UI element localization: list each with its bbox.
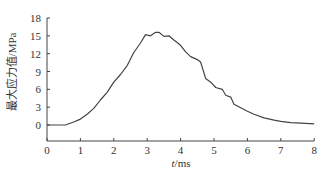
- x-tick-label: 6: [245, 144, 251, 156]
- y-tick-label: 9: [36, 66, 42, 78]
- y-axis: 0369121518: [30, 12, 50, 141]
- x-tick-label: 2: [111, 144, 117, 156]
- x-tick-label: 3: [144, 144, 150, 156]
- y-tick-label: 12: [30, 48, 41, 60]
- y-axis-label: 最大应力值/MPa: [5, 32, 18, 111]
- y-tick-label: 6: [36, 83, 42, 95]
- x-tick-label: 5: [211, 144, 217, 156]
- max-stress-line: [47, 32, 314, 125]
- y-tick-label: 18: [30, 12, 42, 24]
- x-axis-label-unit: /ms: [175, 157, 191, 169]
- x-tick-label: 4: [178, 144, 184, 156]
- x-tick-label: 1: [78, 144, 84, 156]
- y-tick-label: 3: [36, 101, 42, 113]
- x-tick-label: 8: [311, 144, 317, 156]
- x-axis-label: t/ms: [172, 157, 191, 169]
- x-tick-label: 0: [44, 144, 50, 156]
- y-tick-label: 15: [30, 30, 42, 42]
- y-tick-label: 0: [36, 119, 42, 131]
- x-axis: 012345678: [44, 138, 317, 156]
- stress-time-chart: 0369121518 012345678 最大应力值/MPa t/ms: [0, 0, 334, 171]
- x-tick-label: 7: [278, 144, 284, 156]
